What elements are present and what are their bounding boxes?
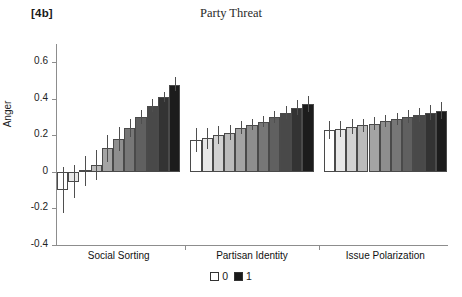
bar (269, 117, 280, 171)
bar (402, 117, 413, 172)
error-bar (329, 121, 330, 139)
error-bar (107, 135, 108, 161)
error-bar (241, 121, 242, 134)
bar (436, 111, 447, 172)
error-bar (340, 121, 341, 137)
error-bar (218, 126, 219, 144)
x-axis-line (56, 245, 448, 246)
legend-swatch-0-icon (210, 272, 219, 281)
error-bar (230, 125, 231, 140)
x-axis-label: Issue Polarization (324, 250, 447, 261)
error-bar (274, 111, 275, 123)
error-bar (286, 106, 287, 119)
bar (258, 122, 269, 172)
bar (380, 121, 391, 172)
error-bar (74, 165, 75, 199)
y-tick-mark (52, 135, 56, 136)
error-bar (85, 156, 86, 185)
error-bar (252, 119, 253, 131)
y-tick-label: 0.6 (34, 55, 48, 66)
error-bar (263, 116, 264, 127)
error-bar (152, 99, 153, 111)
figure-root: [4b] Party Threat Anger 0.60.40.20-0.2-0… (0, 0, 462, 297)
bar (302, 104, 313, 172)
legend: 0 1 (0, 270, 462, 282)
panel-3 (324, 44, 447, 245)
error-bar (175, 77, 176, 91)
y-tick-label: 0.2 (34, 128, 48, 139)
y-tick-label: 0.4 (34, 92, 48, 103)
y-tick-label: -0.4 (31, 238, 48, 249)
bar (235, 128, 246, 172)
error-bar (164, 92, 165, 102)
error-bar (141, 110, 142, 124)
y-tick-label: -0.2 (31, 201, 48, 212)
error-bar (441, 102, 442, 118)
panel-separator-tick (185, 245, 186, 250)
y-tick-label: 0 (42, 165, 48, 176)
error-bar (207, 128, 208, 148)
error-bar (308, 96, 309, 112)
error-bar (419, 108, 420, 122)
error-bar (374, 117, 375, 130)
y-tick-mark (52, 99, 56, 100)
y-tick-mark (52, 245, 56, 246)
error-bar (430, 105, 431, 120)
bar (147, 106, 158, 172)
error-bar (130, 119, 131, 138)
error-bar (196, 128, 197, 152)
error-bar (397, 113, 398, 125)
bar (369, 124, 380, 172)
legend-label-0: 0 (222, 270, 228, 282)
bar (413, 115, 424, 172)
legend-item-1: 1 (234, 270, 252, 282)
panel-separator-tick (319, 245, 320, 250)
error-bar (385, 115, 386, 127)
x-axis-label: Partisan Identity (190, 250, 313, 261)
error-bar (408, 110, 409, 123)
bar (280, 113, 291, 172)
error-bar (63, 167, 64, 214)
legend-label-1: 1 (246, 270, 252, 282)
error-bar (119, 127, 120, 151)
bar (158, 97, 169, 172)
bar (425, 113, 436, 172)
bar (291, 108, 302, 172)
bar (357, 125, 368, 172)
error-bar (297, 100, 298, 115)
bar (169, 85, 180, 172)
legend-item-0: 0 (210, 270, 228, 282)
y-axis-label: Anger (2, 84, 13, 144)
panel-1 (57, 44, 180, 245)
bar (135, 117, 146, 172)
y-tick-mark (52, 208, 56, 209)
bar (246, 125, 257, 172)
y-tick-mark (52, 62, 56, 63)
error-bar (363, 119, 364, 133)
error-bar (352, 119, 353, 134)
bar (391, 119, 402, 172)
panel-2 (190, 44, 313, 245)
legend-swatch-1-icon (234, 272, 243, 281)
y-tick-mark (52, 172, 56, 173)
chart-title: Party Threat (0, 6, 462, 21)
plot-area (57, 44, 447, 245)
error-bar (96, 150, 97, 180)
x-axis-label: Social Sorting (57, 250, 180, 261)
